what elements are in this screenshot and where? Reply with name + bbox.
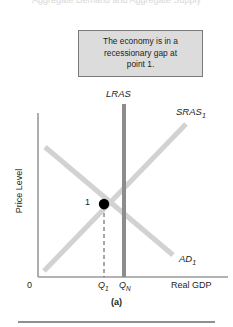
qn-tick-label: QN (119, 280, 131, 292)
qn-tick-subscript: N (126, 285, 131, 292)
sras1-label: SRAS1 (176, 106, 206, 119)
ad1-label-subscript: 1 (192, 259, 196, 266)
ad1-label: AD1 (179, 253, 196, 266)
sras1-label-text: SRAS (176, 106, 202, 117)
qn-tick-text: Q (119, 280, 126, 290)
figure-panel-a: Aggregate Demand and Aggregate Supply Th… (0, 0, 233, 327)
panel-label: (a) (0, 297, 233, 307)
equilibrium-point-label: 1 (85, 197, 90, 207)
lras-label-text: LRAS (106, 88, 131, 99)
equilibrium-point-marker (99, 199, 109, 209)
origin-label: 0 (27, 280, 32, 290)
callout-box: The economy is in a recessionary gap at … (78, 30, 203, 77)
callout-text: The economy is in a recessionary gap at … (98, 36, 183, 71)
q1-tick-label: Q1 (98, 280, 109, 292)
lras-label: LRAS (106, 88, 131, 99)
x-axis-label: Real GDP (171, 280, 212, 290)
sras1-label-subscript: 1 (202, 112, 206, 119)
y-axis-label: Price Level (14, 156, 24, 226)
ad1-curve (45, 147, 173, 255)
q1-tick-subscript: 1 (105, 285, 109, 292)
ad1-label-text: AD (179, 253, 192, 264)
q1-tick-text: Q (98, 280, 105, 290)
